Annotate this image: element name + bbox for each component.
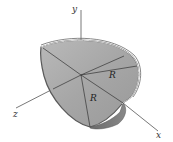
radius-label-upper: R [109,71,116,80]
shell-octant-diagram: y z x R R [0,0,173,142]
x-axis-label: x [156,131,161,140]
z-axis-line [16,89,53,108]
radius-label-lower: R [90,94,97,103]
y-axis-label: y [72,5,77,14]
z-axis-label: z [13,110,18,119]
x-axis-line [123,103,158,131]
diagram-canvas [0,0,173,142]
